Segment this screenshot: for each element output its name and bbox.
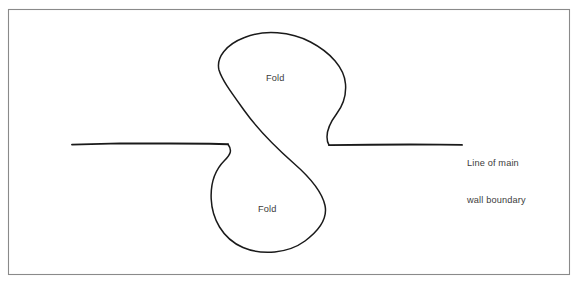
- label-wall-boundary: Line of main wall boundary: [467, 132, 526, 231]
- left-wall-boundary-line: [72, 143, 228, 144]
- right-wall-boundary-line: [329, 145, 462, 146]
- fold-s-curve: [211, 33, 346, 253]
- label-fold-upper: Fold: [266, 72, 284, 84]
- label-wall-boundary-line1: Line of main: [467, 157, 526, 169]
- label-fold-lower: Fold: [258, 203, 276, 215]
- label-wall-boundary-line2: wall boundary: [467, 194, 526, 206]
- diagram-canvas: Fold Fold Line of main wall boundary: [0, 0, 577, 284]
